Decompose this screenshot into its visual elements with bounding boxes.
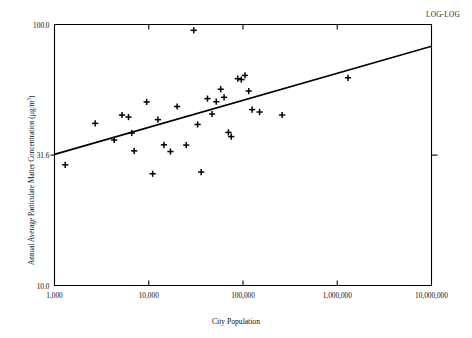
x-tick-label: 10,000,000 bbox=[415, 291, 448, 300]
data-point-marker bbox=[345, 75, 351, 81]
scatter-plot bbox=[0, 0, 472, 338]
data-point-marker bbox=[221, 94, 227, 100]
x-tick-label: 10,000 bbox=[139, 291, 159, 300]
figure-container: LOG-LOG City Population Annual Average P… bbox=[0, 0, 472, 338]
y-axis-title-exponent: 3 bbox=[26, 98, 32, 101]
x-tick-label: 1,000,000 bbox=[323, 291, 352, 300]
y-axis-title-suffix: ) bbox=[27, 96, 36, 98]
data-point-marker bbox=[195, 121, 201, 127]
data-point-marker bbox=[125, 114, 131, 120]
trend-line bbox=[55, 46, 432, 154]
data-point-marker bbox=[249, 107, 255, 113]
x-tick-label: 1,000 bbox=[46, 291, 62, 300]
data-point-marker bbox=[242, 72, 248, 78]
data-point-marker bbox=[256, 109, 262, 115]
data-point-marker bbox=[92, 120, 98, 126]
data-point-marker bbox=[183, 142, 189, 148]
data-point-marker bbox=[279, 112, 285, 118]
x-axis-title: City Population bbox=[0, 317, 472, 326]
data-point-marker bbox=[155, 117, 161, 123]
log-log-annotation: LOG-LOG bbox=[426, 11, 460, 19]
y-tick-label: 31.6 bbox=[37, 151, 50, 160]
data-point-marker bbox=[167, 148, 173, 154]
data-point-marker bbox=[235, 76, 241, 82]
data-point-marker bbox=[62, 162, 68, 168]
y-axis-title: Annual Average Particulate Matter Concen… bbox=[26, 96, 36, 265]
data-point-marker bbox=[161, 142, 167, 148]
axis-ticks bbox=[51, 25, 438, 286]
y-axis-title-text: Annual Average Particulate Matter Concen… bbox=[27, 101, 36, 265]
y-tick-label: 10.0 bbox=[37, 281, 50, 290]
data-points bbox=[62, 27, 351, 177]
data-point-marker bbox=[119, 112, 125, 118]
data-point-marker bbox=[213, 99, 219, 105]
data-point-marker bbox=[218, 86, 224, 92]
y-tick-label: 100.0 bbox=[33, 20, 49, 29]
data-point-marker bbox=[144, 99, 150, 105]
data-point-marker bbox=[246, 88, 252, 94]
data-point-marker bbox=[198, 169, 204, 175]
data-point-marker bbox=[191, 27, 197, 33]
data-point-marker bbox=[204, 96, 210, 102]
data-point-marker bbox=[150, 171, 156, 177]
plot-frame bbox=[55, 25, 432, 286]
data-point-marker bbox=[209, 111, 215, 117]
data-point-marker bbox=[174, 103, 180, 109]
data-point-marker bbox=[131, 148, 137, 154]
x-tick-label: 100,000 bbox=[231, 291, 255, 300]
data-point-marker bbox=[238, 77, 244, 83]
